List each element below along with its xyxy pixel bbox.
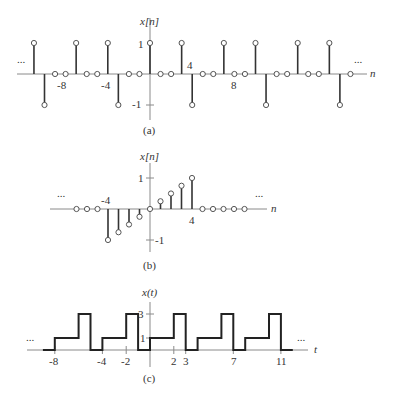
stem-marker <box>221 40 226 45</box>
stem-marker <box>116 230 121 235</box>
stem-marker <box>337 102 342 107</box>
panel-c-y-tick-1-label: 1 <box>140 332 146 344</box>
stem-marker <box>105 40 110 45</box>
stem-marker <box>295 40 300 45</box>
stem-marker <box>105 237 110 242</box>
panel-b-ramp-stem-plot: x[n] 1 -1 -4 4 n ... ... (b) <box>50 150 277 272</box>
stem-marker <box>158 199 163 204</box>
stem-marker <box>348 71 353 76</box>
panel-b-x-label: n <box>271 202 277 214</box>
panel-c-x-tick-neg2: -2 <box>121 355 130 367</box>
panel-c-periodic-continuous-plot: x(t) 3 1 -8 -4 -2 2 3 7 11 t ... ... (c) <box>26 286 318 385</box>
stem-marker <box>84 206 89 211</box>
stem-marker <box>137 71 142 76</box>
stem-marker <box>42 102 47 107</box>
panel-b-y-tick-neg1-label: -1 <box>155 234 164 246</box>
stem-marker <box>126 71 131 76</box>
stem-marker <box>242 71 247 76</box>
panel-c-ellipsis-left: ... <box>26 331 35 343</box>
panel-a-x-tick-8: 8 <box>231 79 237 91</box>
panel-b-x-tick-neg4: -4 <box>101 194 111 206</box>
panel-a-x-tick-neg4: -4 <box>101 79 111 91</box>
panel-a-y-label: x[n] <box>139 15 159 27</box>
signals-figure: x[n] 1 -1 -8 -4 4 8 n ... ... (a) x[n] 1… <box>0 0 397 401</box>
stem-marker <box>179 40 184 45</box>
panel-a-caption: (a) <box>143 124 156 137</box>
panel-b-ellipsis-left: ... <box>57 187 66 199</box>
panel-c-x-label: t <box>314 343 318 355</box>
stem-marker <box>232 71 237 76</box>
panel-a-y-tick-neg1-label: -1 <box>132 98 141 110</box>
stem-marker <box>316 71 321 76</box>
panel-c-y-tick-3-label: 3 <box>138 308 144 320</box>
stem-marker <box>147 206 152 211</box>
stem-marker <box>116 102 121 107</box>
stem-marker <box>274 71 279 76</box>
stem-marker <box>158 71 163 76</box>
stem-marker <box>285 71 290 76</box>
stem-marker <box>31 40 36 45</box>
panel-c-ellipsis-right: ... <box>297 331 306 343</box>
stem-marker <box>190 102 195 107</box>
panel-a-x-tick-neg8: -8 <box>57 79 67 91</box>
panel-b-y-tick-1-label: 1 <box>138 172 144 184</box>
panel-a-x-label: n <box>370 67 376 79</box>
stem-marker <box>63 71 68 76</box>
stem-marker <box>327 40 332 45</box>
stem-marker <box>168 191 173 196</box>
panel-a-y-tick-1: 1 <box>138 38 144 50</box>
stem-marker <box>52 71 57 76</box>
stem-marker <box>84 71 89 76</box>
panel-b-y-label: x[n] <box>139 150 159 162</box>
stem-marker <box>74 40 79 45</box>
stem-marker <box>169 71 174 76</box>
stem-marker <box>210 206 215 211</box>
panel-b-stems <box>74 175 247 242</box>
stem-marker <box>242 206 247 211</box>
stem-marker <box>211 71 216 76</box>
stem-marker <box>263 102 268 107</box>
panel-c-signal-path <box>43 314 293 350</box>
panel-c-x-tick-neg4: -4 <box>97 355 107 367</box>
stem-marker <box>231 206 236 211</box>
stem-marker <box>306 71 311 76</box>
panel-b-ellipsis-right: ... <box>255 187 264 199</box>
panel-c-x-tick-7: 7 <box>231 355 237 367</box>
panel-a-x-tick-4: 4 <box>187 59 193 71</box>
panel-b-x-tick-4: 4 <box>189 214 195 226</box>
panel-a-periodic-stem-plot: x[n] 1 -1 -8 -4 4 8 n ... ... (a) <box>17 15 376 137</box>
stem-marker <box>74 206 79 211</box>
stem-marker <box>95 206 100 211</box>
panel-c-x-tick-neg8: -8 <box>49 355 59 367</box>
panel-b-caption: (b) <box>143 259 156 272</box>
stem-marker <box>253 40 258 45</box>
panel-c-x-tick-11: 11 <box>276 355 287 367</box>
stem-marker <box>189 175 194 180</box>
panel-c-y-label: x(t) <box>141 286 158 299</box>
stem-marker <box>200 206 205 211</box>
stem-marker <box>200 71 205 76</box>
stem-marker <box>126 222 131 227</box>
panel-c-x-tick-3: 3 <box>183 355 189 367</box>
stem-marker <box>221 206 226 211</box>
stem-marker <box>179 183 184 188</box>
stem-marker <box>95 71 100 76</box>
panel-c-caption: (c) <box>143 372 156 385</box>
panel-c-x-tick-2: 2 <box>171 355 177 367</box>
stem-marker <box>137 214 142 219</box>
panel-a-ellipsis-right: ... <box>354 53 363 65</box>
stem-marker <box>147 40 152 45</box>
panel-a-ellipsis-left: ... <box>17 53 26 65</box>
